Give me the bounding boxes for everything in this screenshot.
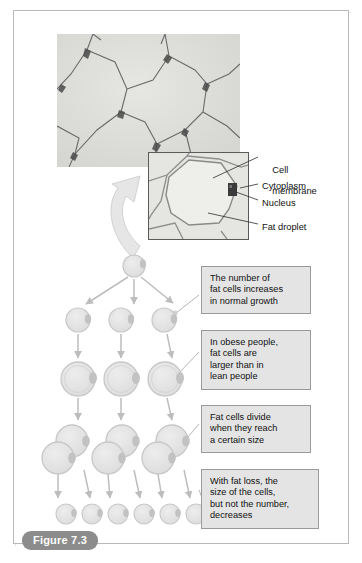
figure-root: Cell membrane Cytoplasm Nucleus Fat drop… [0, 0, 362, 563]
cell-row-2 [66, 308, 177, 332]
figure-number-tag: Figure 7.3 [22, 531, 98, 550]
cell-row-4 [42, 425, 190, 474]
callout-growth: The number of fat cells increases in nor… [201, 266, 311, 314]
callout-fatloss: With fat loss, the size of the cells, bu… [201, 469, 319, 529]
curved-zoom-arrow [111, 176, 140, 258]
callout-division: Fat cells divide when they reach a certa… [201, 405, 311, 453]
cell-row-3 [61, 362, 184, 396]
cell-row-5 [56, 504, 207, 524]
cell-row-1 [123, 255, 146, 277]
callout-obesity: In obese people, fat cells are larger th… [201, 330, 311, 390]
